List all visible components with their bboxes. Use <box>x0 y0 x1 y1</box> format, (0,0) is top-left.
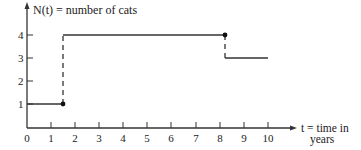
y-ticks <box>27 35 33 104</box>
x-tick-label: 3 <box>96 132 102 144</box>
x-tick-label: 4 <box>120 132 126 144</box>
y-axis-arrow-icon <box>25 2 30 9</box>
y-tick-label: 1 <box>18 98 24 110</box>
x-tick-label: 2 <box>72 132 78 144</box>
x-tick-label: 7 <box>193 132 199 144</box>
x-axis-label-line2: years <box>310 133 335 146</box>
y-tick-label: 2 <box>18 75 24 87</box>
x-tick-label: 9 <box>241 132 247 144</box>
x-tick-label: 8 <box>217 132 223 144</box>
x-tick-label: 10 <box>263 132 275 144</box>
x-ticks <box>51 122 268 128</box>
x-axis-arrow-icon <box>290 126 297 131</box>
filled-point <box>223 33 228 38</box>
y-tick-label: 4 <box>18 29 24 41</box>
filled-point <box>61 102 66 107</box>
x-tick-label: 5 <box>144 132 150 144</box>
x-tick-label: 6 <box>168 132 174 144</box>
step-series <box>27 35 268 104</box>
step-chart: 1 2 3 4 0 1 2 3 4 5 6 7 8 9 10 N(t) = <box>0 0 361 150</box>
y-tick-label: 3 <box>18 52 24 64</box>
x-tick-label: 1 <box>48 132 54 144</box>
x-tick-label: 0 <box>24 132 30 144</box>
y-axis-label: N(t) = number of cats <box>33 3 137 17</box>
